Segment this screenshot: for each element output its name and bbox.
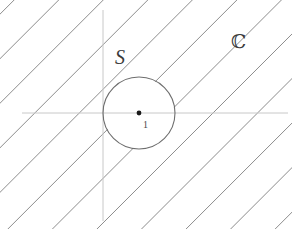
label-complex-plane: ℂ: [231, 31, 246, 52]
label-point-one: 1: [143, 119, 148, 130]
figure-canvas: S ℂ 1: [0, 0, 292, 229]
label-set-s: S: [115, 46, 125, 68]
figure-background: [0, 0, 292, 229]
center-point-marker: [137, 111, 142, 116]
complex-plane-figure: S ℂ 1: [0, 0, 292, 229]
